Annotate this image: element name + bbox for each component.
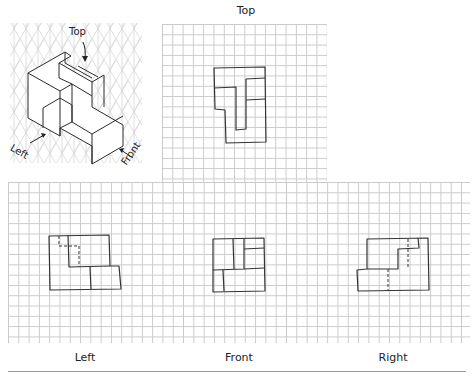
isometric-panel: Top Left Front — [8, 18, 148, 168]
top-view-sketch — [213, 66, 273, 146]
top-view-label: Top — [196, 4, 296, 17]
right-view-sketch — [356, 238, 436, 298]
right-view-label: Right — [343, 351, 443, 364]
isometric-grid — [8, 18, 148, 168]
bottom-divider — [8, 371, 466, 372]
iso-top-label: Top — [69, 26, 86, 37]
left-view-sketch — [48, 235, 128, 295]
front-view-label: Front — [189, 351, 289, 364]
front-view-sketch — [212, 238, 272, 298]
left-view-label: Left — [35, 351, 135, 364]
